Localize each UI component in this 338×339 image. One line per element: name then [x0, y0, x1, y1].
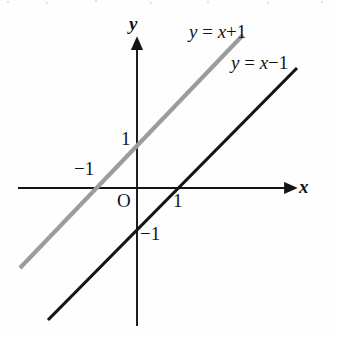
graph-figure: y x O −1 1 1 −1 y = x+1 y = x−1 [0, 0, 338, 339]
equation-label-black-line: y = x−1 [231, 53, 288, 72]
eq-gray-num: 1 [237, 21, 247, 42]
equation-label-gray-line: y = x+1 [189, 22, 246, 41]
eq-gray-var: x [218, 21, 226, 42]
origin-label: O [117, 191, 131, 210]
eq-black-op: − [268, 52, 279, 73]
x-tick-label-negative-one: −1 [74, 159, 94, 178]
eq-black-var: x [260, 52, 268, 73]
eq-black-num: 1 [279, 52, 289, 73]
y-tick-label-one: 1 [121, 129, 131, 148]
x-axis-label: x [299, 177, 309, 196]
y-axis-label: y [129, 14, 137, 33]
eq-black-equals: = [244, 52, 255, 73]
line-y-equals-x-plus-1 [20, 35, 243, 268]
eq-gray-op: + [226, 21, 237, 42]
coordinate-plane-svg [0, 0, 338, 339]
y-tick-label-negative-one: −1 [140, 224, 160, 243]
x-tick-label-one: 1 [173, 191, 183, 210]
